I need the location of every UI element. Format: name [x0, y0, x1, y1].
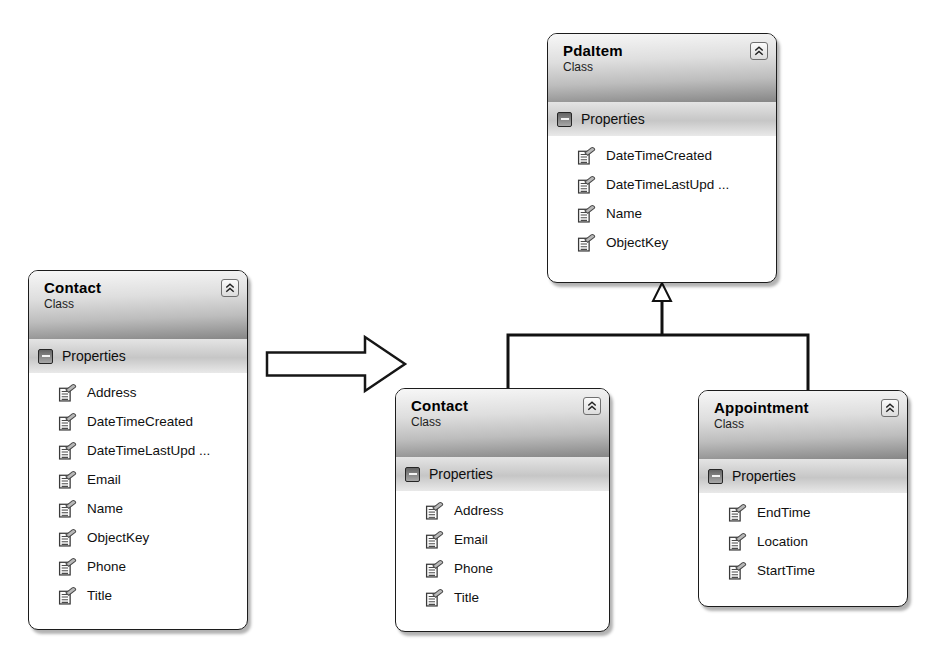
property-name: ObjectKey: [87, 530, 149, 545]
property-name: Location: [757, 534, 808, 549]
property-row[interactable]: DateTimeLastUpd ...: [548, 170, 776, 199]
property-name: DateTimeLastUpd ...: [606, 177, 729, 192]
class-box-appointment[interactable]: Appointment Class Properties EndTime Loc…: [698, 390, 908, 607]
properties-section-header: Properties: [396, 457, 609, 491]
property-row[interactable]: StartTime: [699, 556, 907, 585]
property-name: Address: [87, 385, 137, 400]
minus-icon: [42, 355, 50, 357]
property-icon: [577, 175, 596, 194]
chevron-up-double-icon: [883, 401, 897, 415]
members-list: EndTime Location StartTime: [699, 493, 907, 585]
property-row[interactable]: DateTimeCreated: [548, 141, 776, 170]
class-title: Contact: [411, 396, 468, 415]
class-title: Contact: [44, 278, 101, 297]
property-name: Phone: [87, 559, 126, 574]
property-name: Title: [87, 588, 112, 603]
properties-section-header: Properties: [29, 339, 247, 373]
property-row[interactable]: Phone: [29, 552, 247, 581]
property-row[interactable]: Phone: [396, 554, 609, 583]
class-stereotype: Class: [411, 415, 468, 430]
property-name: DateTimeCreated: [606, 148, 712, 163]
inheritance-connector[interactable]: [508, 283, 808, 394]
property-name: Title: [454, 590, 479, 605]
property-icon: [728, 503, 747, 522]
property-row[interactable]: DateTimeLastUpd ...: [29, 436, 247, 465]
class-header-text: PdaItem Class: [563, 41, 623, 75]
property-row[interactable]: Name: [548, 199, 776, 228]
property-row[interactable]: ObjectKey: [29, 523, 247, 552]
inheritance-triangle-icon: [653, 283, 671, 301]
class-header: Appointment Class: [699, 391, 907, 459]
property-icon: [728, 532, 747, 551]
collapse-button[interactable]: [221, 279, 239, 297]
property-name: EndTime: [757, 505, 811, 520]
property-icon: [577, 204, 596, 223]
property-row[interactable]: Title: [396, 583, 609, 612]
property-row[interactable]: Email: [396, 525, 609, 554]
property-icon: [58, 470, 77, 489]
property-icon: [58, 557, 77, 576]
section-label: Properties: [429, 466, 493, 482]
class-title: Appointment: [714, 398, 809, 417]
class-stereotype: Class: [563, 60, 623, 75]
property-icon: [425, 530, 444, 549]
property-row[interactable]: Address: [29, 378, 247, 407]
property-icon: [577, 233, 596, 252]
property-name: Name: [606, 206, 642, 221]
collapse-button[interactable]: [881, 399, 899, 417]
section-collapse-toggle[interactable]: [405, 467, 420, 482]
property-name: DateTimeLastUpd ...: [87, 443, 210, 458]
section-label: Properties: [732, 468, 796, 484]
class-title: PdaItem: [563, 41, 623, 60]
property-row[interactable]: Name: [29, 494, 247, 523]
property-name: Email: [87, 472, 121, 487]
property-icon: [58, 441, 77, 460]
property-row[interactable]: Location: [699, 527, 907, 556]
property-row[interactable]: EndTime: [699, 498, 907, 527]
property-row[interactable]: DateTimeCreated: [29, 407, 247, 436]
class-diagram-canvas: Contact Class Properties Address DateTim…: [0, 0, 943, 663]
class-header-text: Appointment Class: [714, 398, 809, 432]
property-icon: [58, 586, 77, 605]
collapse-button[interactable]: [750, 42, 768, 60]
property-icon: [58, 412, 77, 431]
class-box-contact-derived[interactable]: Contact Class Properties Address Email: [395, 388, 610, 632]
class-header-text: Contact Class: [411, 396, 468, 430]
class-stereotype: Class: [44, 297, 101, 312]
property-name: Phone: [454, 561, 493, 576]
property-icon: [58, 499, 77, 518]
minus-icon: [561, 118, 569, 120]
class-box-contact-source[interactable]: Contact Class Properties Address DateTim…: [28, 270, 248, 630]
property-name: Address: [454, 503, 504, 518]
chevron-up-double-icon: [752, 44, 766, 58]
class-header-text: Contact Class: [44, 278, 101, 312]
property-icon: [425, 588, 444, 607]
transform-arrow-icon: [267, 337, 405, 391]
section-collapse-toggle[interactable]: [557, 112, 572, 127]
section-label: Properties: [581, 111, 645, 127]
chevron-up-double-icon: [585, 399, 599, 413]
properties-section-header: Properties: [699, 459, 907, 493]
section-collapse-toggle[interactable]: [38, 349, 53, 364]
property-icon: [425, 501, 444, 520]
property-row[interactable]: Title: [29, 581, 247, 610]
section-collapse-toggle[interactable]: [708, 469, 723, 484]
property-icon: [58, 528, 77, 547]
class-box-pdaitem[interactable]: PdaItem Class Properties DateTimeCreated…: [547, 33, 777, 283]
property-name: Email: [454, 532, 488, 547]
property-icon: [425, 559, 444, 578]
property-icon: [728, 561, 747, 580]
property-name: DateTimeCreated: [87, 414, 193, 429]
property-name: StartTime: [757, 563, 815, 578]
members-list: DateTimeCreated DateTimeLastUpd ... Name…: [548, 136, 776, 257]
property-row[interactable]: Address: [396, 496, 609, 525]
property-row[interactable]: Email: [29, 465, 247, 494]
collapse-button[interactable]: [583, 397, 601, 415]
class-header: Contact Class: [29, 271, 247, 339]
class-header: Contact Class: [396, 389, 609, 457]
property-icon: [577, 146, 596, 165]
property-name: Name: [87, 501, 123, 516]
class-header: PdaItem Class: [548, 34, 776, 102]
minus-icon: [409, 473, 417, 475]
property-row[interactable]: ObjectKey: [548, 228, 776, 257]
